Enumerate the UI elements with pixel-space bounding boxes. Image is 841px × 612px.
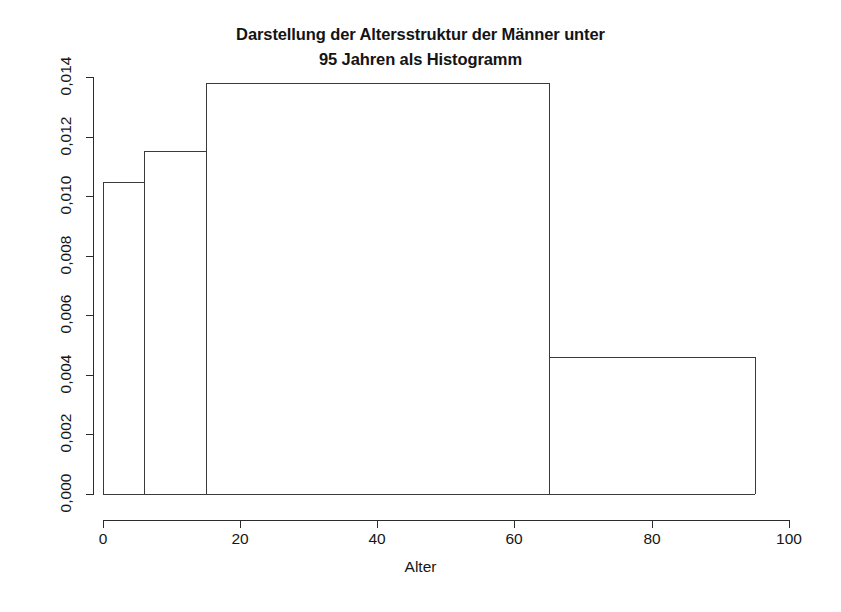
x-tick-label-40: 40 — [347, 530, 407, 548]
x-tick-label-100: 100 — [759, 530, 819, 548]
x-tick-100 — [789, 520, 790, 528]
y-tick-5 — [86, 196, 94, 197]
histogram-baseline — [103, 494, 755, 495]
x-tick-80 — [652, 520, 653, 528]
histogram-figure: Darstellung der Altersstruktur der Männe… — [0, 0, 841, 612]
plot-area: 0,000 0,002 0,004 0,006 0,008 0,010 0,01… — [0, 0, 841, 612]
x-tick-label-20: 20 — [210, 530, 270, 548]
y-tick-label-7: 0,014 — [57, 36, 75, 116]
x-tick-label-0: 0 — [73, 530, 133, 548]
y-tick-3 — [86, 315, 94, 316]
x-tick-40 — [377, 520, 378, 528]
x-axis-line — [103, 520, 790, 521]
y-tick-2 — [86, 375, 94, 376]
histogram-bar-3 — [549, 357, 756, 494]
x-tick-60 — [514, 520, 515, 528]
y-tick-0 — [86, 494, 94, 495]
y-tick-6 — [86, 137, 94, 138]
x-tick-20 — [240, 520, 241, 528]
histogram-bar-1 — [144, 151, 207, 494]
x-tick-0 — [103, 520, 104, 528]
x-axis-title: Alter — [0, 558, 841, 576]
y-axis-line — [93, 77, 94, 495]
y-tick-4 — [86, 256, 94, 257]
x-tick-label-80: 80 — [622, 530, 682, 548]
y-tick-1 — [86, 434, 94, 435]
histogram-bar-2 — [206, 83, 550, 494]
histogram-bar-0 — [103, 182, 145, 494]
x-tick-label-60: 60 — [484, 530, 544, 548]
y-tick-7 — [86, 77, 94, 78]
